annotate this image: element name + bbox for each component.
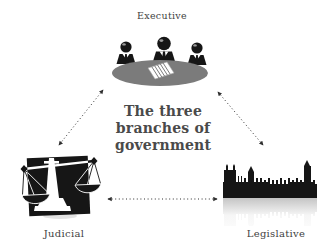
scales-of-justice-icon [20, 148, 102, 226]
parliament-reflection [223, 198, 317, 226]
cabinet-meeting-table-icon [106, 31, 214, 91]
parliament-skyline [223, 160, 317, 198]
parliament-building-icon [220, 156, 324, 226]
person-center-icon [153, 37, 176, 63]
title-line: branches of [116, 120, 210, 136]
legislative-label: Legislative [226, 228, 326, 239]
person-left-icon [117, 41, 136, 64]
executive-label: Executive [108, 10, 216, 21]
judicial-label: Judicial [22, 228, 106, 239]
title-line: government [115, 137, 211, 153]
diagram-canvas: Executive [0, 0, 327, 246]
title-line: The three [124, 103, 202, 119]
person-right-icon [188, 42, 207, 65]
diagram-title: The three branches of government [96, 103, 230, 154]
